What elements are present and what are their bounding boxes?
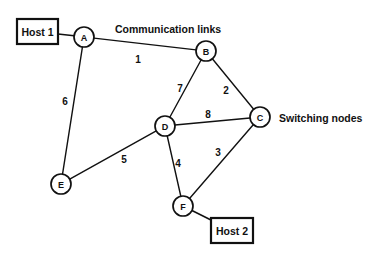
edge-D-C — [175, 118, 250, 125]
switching-node-e-label: E — [58, 180, 64, 190]
edge-A-B-weight: 1 — [135, 54, 141, 65]
edge-C-F-weight: 3 — [215, 147, 221, 158]
edge-D-F-weight: 4 — [175, 158, 181, 169]
edge-B-D-weight: 7 — [177, 83, 183, 94]
switching-node-c-label: C — [257, 113, 264, 123]
host-2-connector — [192, 210, 211, 220]
edge-weight-group: 16728345 — [62, 54, 229, 169]
network-diagram-svg: Host 1Host 2 ABCDEF 16728345 Communicati… — [0, 0, 366, 261]
communication-links-label: Communication links — [115, 23, 221, 35]
network-diagram-canvas: Host 1Host 2 ABCDEF 16728345 Communicati… — [0, 0, 366, 261]
edge-B-C-weight: 2 — [223, 85, 229, 96]
annotation-group: Communication linksSwitching nodes — [115, 23, 363, 124]
edge-A-E — [63, 47, 83, 174]
host-2-label: Host 2 — [216, 225, 248, 237]
host-1-label: Host 1 — [21, 26, 53, 38]
switching-node-d-label: D — [162, 122, 169, 132]
edge-A-E-weight: 6 — [62, 96, 68, 107]
switching-node-group: ABCDEF — [51, 27, 270, 216]
edge-D-E — [70, 131, 157, 179]
edge-D-C-weight: 8 — [205, 109, 211, 120]
switching-nodes-label: Switching nodes — [279, 112, 363, 124]
switching-node-a-label: A — [81, 33, 88, 43]
switching-node-f-label: F — [180, 202, 186, 212]
edge-C-F — [190, 125, 254, 199]
host-1-connector — [58, 34, 74, 36]
edge-D-E-weight: 5 — [121, 154, 127, 165]
edge-B-C — [212, 59, 253, 110]
edge-A-B — [94, 38, 196, 50]
edge-B-D — [170, 60, 201, 117]
switching-node-b-label: B — [203, 47, 210, 57]
